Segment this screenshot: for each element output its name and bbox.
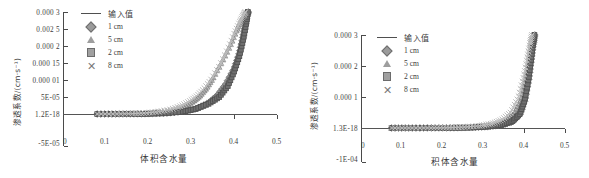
chart-panel-right: 渗透系数/(cm·s⁻¹) 0.000 3 0.000 2 0.000 1 1.… (294, 0, 589, 178)
data-curves-right (294, 0, 589, 178)
figure-two-panel-charts: 渗透系数/(cm·s⁻¹) 0.000 3 0.002 5 0.000 2 0.… (0, 0, 589, 178)
chart-panel-left: 渗透系数/(cm·s⁻¹) 0.000 3 0.002 5 0.000 2 0.… (0, 0, 294, 178)
data-curves-left (0, 0, 294, 178)
